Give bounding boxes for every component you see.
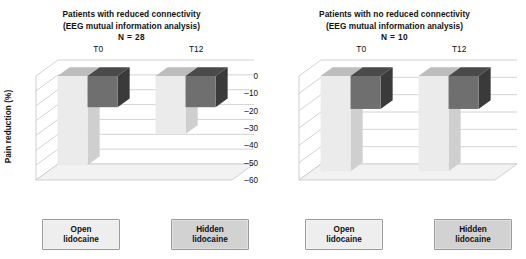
panel-sample-size: N = 10 [263, 32, 526, 44]
y-tick-label: –10 [244, 89, 258, 98]
panel-title-line2: (EEG mutual information analysis) [263, 21, 526, 33]
legend: Open lidocaine Hidden lidocaine [36, 219, 255, 249]
panel-title-line1: Patients with reduced connectivity [0, 9, 263, 21]
panel-title: Patients with reduced connectivity (EEG … [0, 9, 263, 44]
panel-title-line2: (EEG mutual information analysis) [0, 21, 263, 33]
chart-bars [36, 56, 254, 196]
x-axis-label-t0: T0 [356, 44, 366, 54]
panel-sample-size: N = 28 [0, 32, 263, 44]
y-axis-ticks: 0–10–20–30–40–50–60 [233, 56, 261, 196]
legend-open-line1: Open [334, 225, 355, 235]
legend-open-line2: lidocaine [326, 235, 362, 245]
legend-hidden-line2: lidocaine [455, 235, 491, 245]
y-tick-label: –30 [244, 124, 258, 133]
legend-item-open-lidocaine: Open lidocaine [42, 219, 120, 250]
legend-open-line1: Open [71, 225, 92, 235]
chart-bars [299, 56, 517, 196]
panel-title-line1: Patients with no reduced connectivity [263, 9, 526, 21]
legend-item-open-lidocaine: Open lidocaine [305, 219, 383, 250]
x-axis-label-t0: T0 [93, 44, 103, 54]
x-axis-label-t12: T12 [189, 44, 203, 54]
legend: Open lidocaine Hidden lidocaine [299, 219, 518, 249]
legend-hidden-line1: Hidden [196, 225, 224, 235]
y-tick-label: –20 [244, 106, 258, 115]
plot-area [36, 56, 254, 196]
y-tick-label: –60 [244, 176, 258, 185]
y-tick-label: –50 [244, 158, 258, 167]
legend-open-line2: lidocaine [63, 235, 99, 245]
y-tick-label: –40 [244, 141, 258, 150]
panel-title: Patients with no reduced connectivity (E… [263, 9, 526, 44]
legend-item-hidden-lidocaine: Hidden lidocaine [171, 219, 249, 250]
figure-two-panel-bar-charts: Patients with reduced connectivity (EEG … [0, 0, 526, 259]
legend-hidden-line2: lidocaine [192, 235, 228, 245]
y-axis-label: Pain reduction (%) [2, 56, 16, 196]
y-tick-label: 0 [253, 72, 258, 81]
legend-item-hidden-lidocaine: Hidden lidocaine [434, 219, 512, 250]
legend-hidden-line1: Hidden [459, 225, 487, 235]
x-axis-label-t12: T12 [452, 44, 466, 54]
chart-panel-reduced-connectivity: Patients with reduced connectivity (EEG … [0, 0, 263, 259]
plot-area [299, 56, 517, 196]
chart-panel-no-reduced-connectivity: Patients with no reduced connectivity (E… [263, 0, 526, 259]
